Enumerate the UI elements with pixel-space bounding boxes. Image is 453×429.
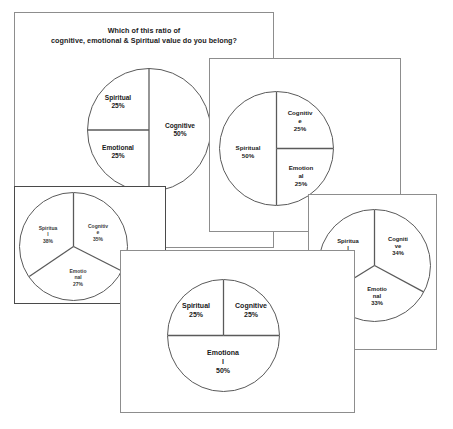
pie-chart-3-dividers [20, 193, 127, 300]
pie-chart-1-dividers [88, 69, 210, 191]
pie-chart-2[interactable] [219, 91, 334, 206]
pie-chart-5-dividers [168, 280, 279, 391]
pie-chart-2-dividers [220, 92, 333, 205]
pie-chart-3[interactable] [19, 192, 128, 301]
pie-chart-1[interactable] [87, 68, 211, 192]
slide-canvas: Which of this ratio of cognitive, emotio… [0, 0, 453, 429]
slide-title-line2: cognitive, emotional & Spiritual value d… [51, 36, 237, 45]
pie-chart-5[interactable] [167, 279, 280, 392]
slide-title-line1: Which of this ratio of [108, 26, 181, 35]
slide-title: Which of this ratio of cognitive, emotio… [15, 26, 273, 47]
